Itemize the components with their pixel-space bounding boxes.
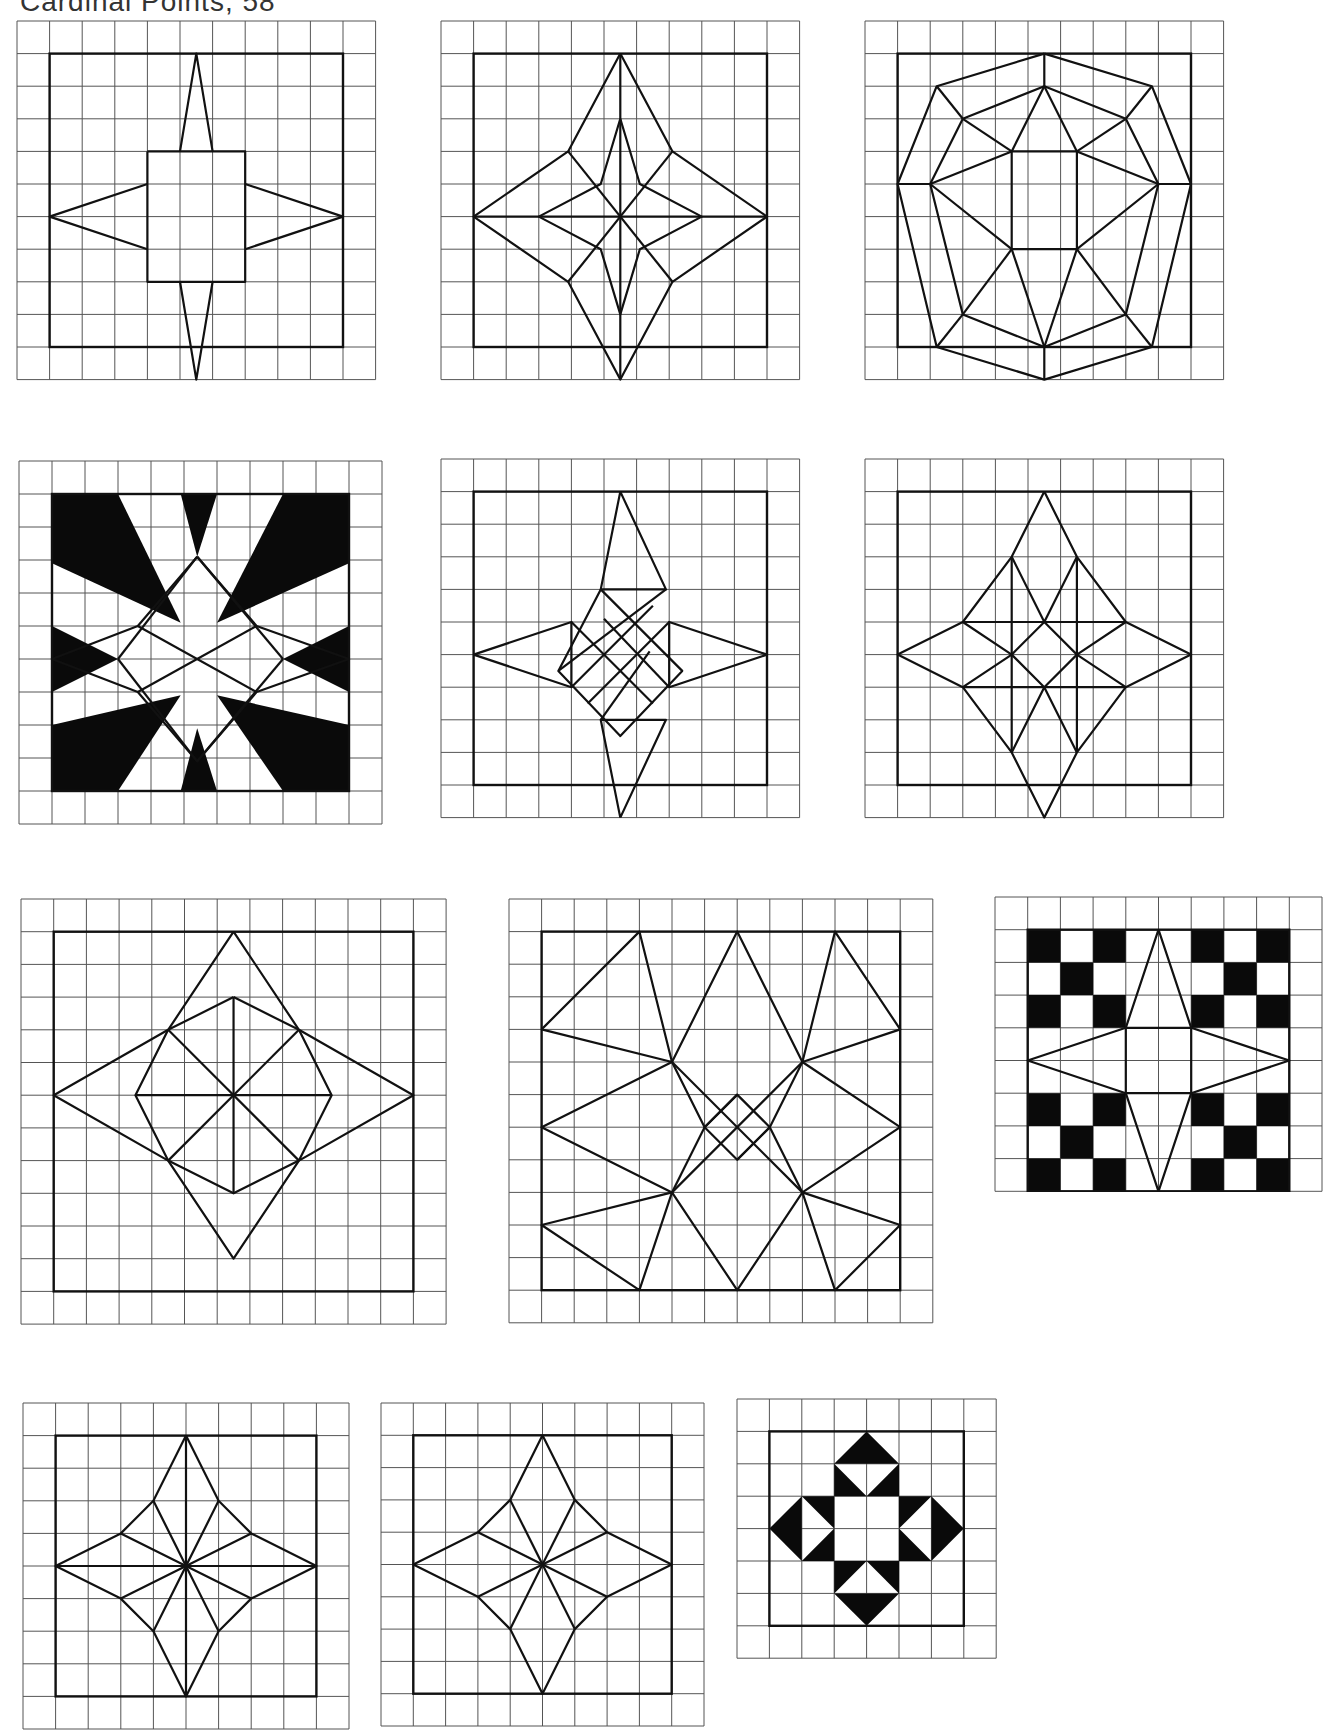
geometric-pattern	[508, 898, 934, 1324]
grid-panel-8	[508, 898, 934, 1324]
grid-panel-10	[22, 1402, 350, 1730]
geometric-pattern	[22, 1402, 350, 1730]
grid-panel-1	[16, 20, 377, 381]
page-title: Cardinal Points, 58	[20, 0, 276, 18]
geometric-pattern	[864, 458, 1225, 819]
grid-panel-11	[380, 1402, 705, 1727]
grid-panel-3	[864, 20, 1225, 381]
geometric-pattern	[380, 1402, 705, 1727]
geometric-pattern	[20, 898, 447, 1325]
geometric-pattern	[440, 458, 801, 819]
geometric-pattern	[736, 1398, 997, 1659]
geometric-pattern	[864, 20, 1225, 381]
geometric-pattern	[440, 20, 801, 381]
grid-panel-12	[736, 1398, 997, 1659]
grid-panel-4	[18, 460, 383, 825]
grid-panel-2	[440, 20, 801, 381]
grid-panel-7	[20, 898, 447, 1325]
geometric-pattern	[18, 460, 383, 825]
geometric-pattern	[994, 896, 1323, 1192]
grid-panel-5	[440, 458, 801, 819]
grid-panel-9	[994, 896, 1323, 1192]
grid-panel-6	[864, 458, 1225, 819]
geometric-pattern	[16, 20, 377, 381]
